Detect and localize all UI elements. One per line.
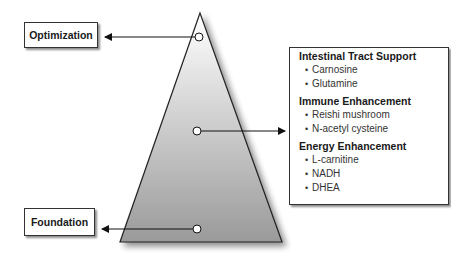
bullet-icon: • <box>305 109 312 122</box>
section-title: Energy Enhancement <box>299 140 448 153</box>
list-item: •L-carnitine <box>305 153 448 167</box>
foundation-box: Foundation <box>24 208 95 236</box>
bullet-icon: • <box>305 123 312 136</box>
bullet-icon: • <box>305 154 312 167</box>
section-energy: Energy Enhancement •L-carnitine •NADH •D… <box>299 140 448 195</box>
list-item: •N-acetyl cysteine <box>305 122 448 136</box>
node-middle <box>193 127 201 135</box>
section-title: Intestinal Tract Support <box>299 50 448 63</box>
optimization-label: Optimization <box>29 29 93 41</box>
section-title: Immune Enhancement <box>299 95 448 108</box>
section-intestinal: Intestinal Tract Support •Carnosine •Glu… <box>299 50 448 91</box>
list-item: •NADH <box>305 167 448 181</box>
bullet-icon: • <box>305 78 312 91</box>
details-box: Intestinal Tract Support •Carnosine •Glu… <box>289 47 449 205</box>
bullet-icon: • <box>305 168 312 181</box>
node-top <box>195 33 203 41</box>
list-item: •Carnosine <box>305 63 448 77</box>
bullet-icon: • <box>305 182 312 195</box>
list-item: •Glutamine <box>305 77 448 91</box>
optimization-box: Optimization <box>24 22 98 48</box>
bullet-icon: • <box>305 64 312 77</box>
pyramid-triangle <box>120 13 282 242</box>
list-item: •Reishi mushroom <box>305 108 448 122</box>
list-item: •DHEA <box>305 181 448 195</box>
node-bottom <box>193 225 201 233</box>
section-immune: Immune Enhancement •Reishi mushroom •N-a… <box>299 95 448 136</box>
foundation-label: Foundation <box>31 216 88 228</box>
